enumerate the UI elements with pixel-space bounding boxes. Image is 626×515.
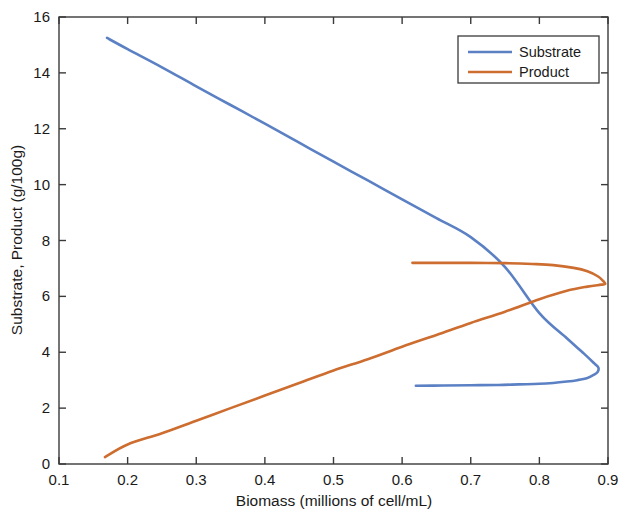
x-tick-label-1: 0.2: [117, 471, 138, 488]
y-tick-label-0: 0: [42, 455, 50, 472]
x-tick-label-3: 0.4: [254, 471, 275, 488]
x-tick-label-6: 0.7: [460, 471, 481, 488]
y-tick-label-6: 12: [33, 120, 50, 137]
y-tick-label-8: 16: [33, 8, 50, 25]
y-axis-label: Substrate, Product (g/100g): [8, 145, 25, 335]
y-tick-label-7: 14: [33, 64, 50, 81]
y-tick-label-1: 2: [42, 399, 50, 416]
legend-label-substrate: Substrate: [519, 44, 581, 60]
y-tick-label-2: 4: [42, 343, 50, 360]
legend-label-product: Product: [519, 64, 569, 80]
x-axis-label: Biomass (millions of cell/mL): [236, 492, 432, 509]
y-tick-label-3: 6: [42, 287, 50, 304]
x-tick-label-2: 0.3: [186, 471, 207, 488]
x-tick-label-4: 0.5: [323, 471, 344, 488]
x-axis-tick-labels: 0.10.20.30.40.50.60.70.80.9: [49, 471, 619, 488]
chart-legend: Substrate Product: [458, 36, 599, 83]
x-tick-label-8: 0.9: [598, 471, 619, 488]
x-tick-label-5: 0.6: [392, 471, 413, 488]
y-tick-label-5: 10: [33, 176, 50, 193]
x-tick-label-7: 0.8: [529, 471, 550, 488]
y-tick-label-4: 8: [42, 232, 50, 249]
x-tick-label-0: 0.1: [49, 471, 70, 488]
chart-figure: 0.10.20.30.40.50.60.70.80.9 024681012141…: [0, 0, 626, 515]
